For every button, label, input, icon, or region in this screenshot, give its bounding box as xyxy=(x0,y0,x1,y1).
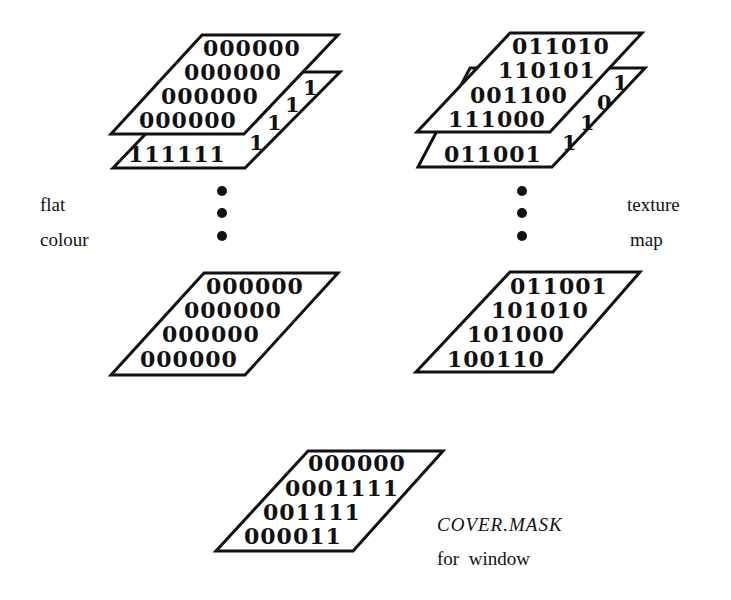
bit-row: 000000 xyxy=(162,321,260,347)
ellipsis-dot xyxy=(517,186,527,196)
bit-row: 011010 xyxy=(512,33,610,59)
bit-row: 000000 xyxy=(206,273,304,299)
ellipsis-dot xyxy=(217,186,227,196)
bit-row: 000000 xyxy=(308,450,406,476)
edge-bit: 1 xyxy=(285,92,300,117)
ellipsis-dot xyxy=(217,208,227,218)
cover-mask-title: COVER.MASK xyxy=(437,514,563,535)
flat-colour-label-line2: colour xyxy=(40,229,89,250)
flat-colour-plane-2-row: 111111 xyxy=(128,141,226,167)
bit-row: 000000 xyxy=(140,346,238,372)
ellipsis-dot xyxy=(217,231,227,241)
bit-row: 0001111 xyxy=(285,475,399,501)
flat-colour-stack: 111111 1 1 1 1 000000 000000 000000 0000… xyxy=(40,35,340,375)
edge-bit: 1 xyxy=(267,110,282,135)
edge-bit: 1 xyxy=(303,75,318,100)
bit-row: 000000 xyxy=(184,297,282,323)
bit-row: 000000 xyxy=(203,35,301,61)
bit-row: 001100 xyxy=(470,82,568,108)
edge-bit: 1 xyxy=(580,110,595,135)
texture-map-plane-2-row: 011001 xyxy=(444,141,542,167)
cover-mask: 000000 0001111 001111 000011 COVER.MASK … xyxy=(216,450,563,569)
bit-row: 011001 xyxy=(510,273,608,299)
edge-bit: 0 xyxy=(597,90,612,115)
bit-row: 100110 xyxy=(447,346,545,372)
edge-bit: 1 xyxy=(562,130,577,155)
bit-row: 101010 xyxy=(491,297,589,323)
bit-row: 111000 xyxy=(448,106,546,132)
texture-map-label-line1: texture xyxy=(627,194,680,215)
bit-row: 110101 xyxy=(498,57,596,83)
bit-row: 000000 xyxy=(139,107,237,133)
bit-row: 000011 xyxy=(244,523,342,549)
bit-row: 101000 xyxy=(467,321,565,347)
edge-bit: 1 xyxy=(613,70,628,95)
texture-map-stack: 011001 1 1 0 1 011010 110101 001100 1110… xyxy=(416,33,680,372)
bit-row: 000000 xyxy=(184,59,282,85)
ellipsis-dot xyxy=(517,208,527,218)
bitplane-diagram: 111111 1 1 1 1 000000 000000 000000 0000… xyxy=(0,0,731,600)
bit-row: 001111 xyxy=(263,499,361,525)
cover-mask-subtitle: for window xyxy=(437,548,530,569)
edge-bit: 1 xyxy=(249,130,264,155)
flat-colour-label-line1: flat xyxy=(40,194,66,215)
ellipsis-dot xyxy=(517,231,527,241)
bit-row: 000000 xyxy=(161,83,259,109)
texture-map-label-line2: map xyxy=(630,229,663,250)
